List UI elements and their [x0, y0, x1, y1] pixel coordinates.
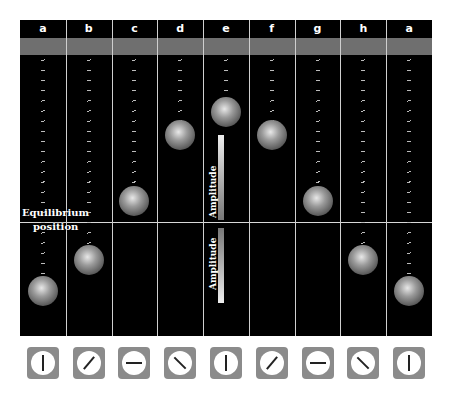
phase-dial-icon	[302, 347, 334, 379]
dial-face	[260, 351, 284, 375]
column-divider	[66, 20, 67, 336]
column-header: f	[249, 20, 295, 38]
ceiling-band	[295, 38, 341, 55]
ceiling-band	[203, 38, 249, 55]
ceiling-band	[20, 38, 66, 55]
dial-face	[397, 351, 421, 375]
phase-dial-icon	[393, 347, 425, 379]
dial-face	[214, 351, 238, 375]
dial-face	[77, 351, 101, 375]
dial-face	[31, 351, 55, 375]
dial-face	[168, 351, 192, 375]
equilibrium-label-line2: position	[22, 220, 89, 234]
mass-ball	[165, 120, 195, 150]
spring-icon	[316, 55, 320, 189]
column-c: c	[112, 20, 158, 336]
mass-ball	[119, 186, 149, 216]
ceiling-band	[386, 38, 432, 55]
phase-dial-icon	[210, 347, 242, 379]
ceiling-band	[157, 38, 203, 55]
spring-icon	[41, 55, 45, 279]
column-header: a	[20, 20, 66, 38]
phase-dial-icon	[256, 347, 288, 379]
mass-ball	[257, 120, 287, 150]
spring-icon	[178, 55, 182, 123]
ceiling-band	[249, 38, 295, 55]
dial-hand	[42, 355, 44, 371]
column-a: a	[20, 20, 66, 336]
mass-ball	[394, 276, 424, 306]
dial-hand	[225, 355, 227, 371]
dial-hand	[126, 362, 142, 364]
dial-hand	[310, 362, 326, 364]
column-header: g	[295, 20, 341, 38]
amplitude-down-label: Amplitude	[208, 238, 218, 290]
spring-icon	[224, 55, 228, 100]
amplitude-up-label: Amplitude	[208, 166, 218, 218]
column-divider	[295, 20, 296, 336]
column-header: a	[386, 20, 432, 38]
ceiling-band	[66, 38, 112, 55]
mass-ball	[28, 276, 58, 306]
dial-face	[122, 351, 146, 375]
column-header: d	[157, 20, 203, 38]
amplitude-down-arrow	[218, 228, 224, 303]
column-divider	[386, 20, 387, 336]
column-header: c	[112, 20, 158, 38]
mass-ball	[74, 245, 104, 275]
column-divider	[340, 20, 341, 336]
ceiling-band	[340, 38, 386, 55]
amplitude-up-arrow	[218, 135, 224, 220]
column-b: b	[66, 20, 112, 336]
column-a: a	[386, 20, 432, 336]
dial-hand	[408, 355, 410, 371]
phase-dial-icon	[347, 347, 379, 379]
column-divider	[112, 20, 113, 336]
spring-icon	[132, 55, 136, 189]
mass-ball	[303, 186, 333, 216]
dial-hand	[83, 356, 95, 370]
equilibrium-label: Equilibrium position	[22, 206, 89, 234]
ceiling-band	[112, 38, 158, 55]
column-header: h	[340, 20, 386, 38]
column-divider	[203, 20, 204, 336]
column-h: h	[340, 20, 386, 336]
dial-face	[351, 351, 375, 375]
spring-icon	[270, 55, 274, 123]
column-divider	[157, 20, 158, 336]
column-header: b	[66, 20, 112, 38]
dial-hand	[357, 357, 370, 370]
mass-ball	[211, 97, 241, 127]
oscillation-diagram: a b c d e f g h a	[20, 20, 432, 336]
dial-face	[306, 351, 330, 375]
equilibrium-label-line1: Equilibrium	[22, 206, 89, 220]
dial-hand	[174, 357, 187, 370]
phase-dial-icon	[118, 347, 150, 379]
column-divider	[249, 20, 250, 336]
mass-ball	[348, 245, 378, 275]
phase-dial-icon	[164, 347, 196, 379]
dial-hand	[266, 356, 278, 370]
spring-icon	[361, 55, 365, 248]
phase-dial-icon	[73, 347, 105, 379]
spring-icon	[407, 55, 411, 279]
column-d: d	[157, 20, 203, 336]
column-f: f	[249, 20, 295, 336]
column-header: e	[203, 20, 249, 38]
phase-dial-icon	[27, 347, 59, 379]
column-g: g	[295, 20, 341, 336]
